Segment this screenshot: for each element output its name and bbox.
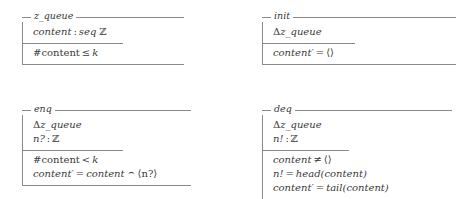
schema-header: init (262, 11, 456, 22)
decl-lhs: content (33, 26, 71, 37)
pred-rhs: head(content) (296, 168, 367, 179)
pred-lhs: #content (33, 47, 80, 58)
pred-lhs: content′ (273, 182, 314, 193)
schema-head-rule (76, 17, 184, 18)
declaration-part: Δz_queue n!:ℤ (263, 117, 452, 148)
predicate-line: content≠⟨⟩ (273, 153, 452, 167)
schema-box-enq: enq Δz_queue n?:ℤ #content<k content′=co… (22, 104, 191, 186)
schema-body: Δz_queue n?:ℤ #content<k content′=conten… (22, 115, 191, 185)
schema-name-enq: enq (31, 104, 55, 114)
predicate-part: content≠⟨⟩ n!=head(content) content′=tai… (263, 152, 452, 197)
decl-lhs: n? (33, 133, 45, 144)
schema-head-rule (55, 110, 191, 111)
predicate-part: content′=⟨⟩ (263, 45, 456, 62)
predicate-line: content′=⟨⟩ (273, 46, 456, 60)
schema-body: Δz_queue content′=⟨⟩ (262, 22, 456, 64)
pred-rhs: ⟨⟩ (326, 47, 334, 58)
predicate-part: #content<k content′=content⌢⟨n?⟩ (23, 152, 191, 183)
pred-lhs: content′ (273, 47, 314, 58)
schema-head-rule (293, 17, 456, 18)
declaration-part: Δz_queue (263, 24, 456, 41)
schema-divider (263, 43, 355, 44)
pred-lhs: content′ (33, 168, 74, 179)
decl-colon: : (283, 133, 290, 144)
schema-footer-rule (22, 64, 184, 65)
declaration-line: Δz_queue (33, 118, 191, 132)
predicate-line: n!=head(content) (273, 167, 452, 181)
schema-divider (263, 150, 349, 151)
pred-op: < (80, 154, 92, 165)
schema-head-rule (295, 110, 452, 111)
schema-body: Δz_queue n!:ℤ content≠⟨⟩ n!=head(content… (262, 115, 452, 199)
declaration-line: Δz_queue (273, 25, 456, 39)
decl-lhs: z_queue (40, 119, 81, 130)
schema-body: content:seq ℤ #content≤k (22, 22, 184, 64)
predicate-part: #content≤k (23, 45, 184, 62)
schema-box-deq: deq Δz_queue n!:ℤ content≠⟨⟩ n!=head(con… (262, 104, 452, 199)
schema-name-init: init (271, 11, 293, 21)
schema-box-z-queue: z_queue content:seq ℤ #content≤k (22, 11, 184, 65)
decl-type-prefix: seq (79, 26, 96, 37)
schema-head-stub (262, 17, 271, 18)
pred-rhs-a: content (86, 168, 124, 179)
declaration-part: Δz_queue n?:ℤ (23, 117, 191, 148)
schema-header: enq (22, 104, 191, 115)
pred-rhs: k (92, 154, 98, 165)
schema-head-stub (262, 110, 271, 111)
schema-header: deq (262, 104, 452, 115)
decl-type: ℤ (52, 133, 59, 144)
predicate-line: content′=tail(content) (273, 181, 452, 195)
declaration-line: content:seq ℤ (33, 25, 184, 39)
pred-op: = (74, 168, 86, 179)
schema-head-stub (22, 17, 31, 18)
pred-lhs: n! (273, 168, 283, 179)
decl-type: ℤ (99, 26, 106, 37)
schema-header: z_queue (22, 11, 184, 22)
pred-op: = (314, 182, 326, 193)
pred-lhs: content (273, 154, 311, 165)
schema-divider (23, 150, 123, 151)
declaration-part: content:seq ℤ (23, 24, 184, 41)
schema-head-stub (22, 110, 31, 111)
decl-lhs: n! (273, 133, 283, 144)
pred-rhs-b: ⟨n?⟩ (138, 168, 158, 179)
decl-lhs: z_queue (280, 26, 321, 37)
predicate-line: #content≤k (33, 46, 184, 60)
schema-box-init: init Δz_queue content′=⟨⟩ (262, 11, 456, 65)
predicate-line: content′=content⌢⟨n?⟩ (33, 167, 191, 181)
pred-op: = (283, 168, 295, 179)
pred-op: ≤ (80, 47, 92, 58)
decl-colon: : (71, 26, 78, 37)
pred-op: = (314, 47, 326, 58)
schema-name-deq: deq (271, 104, 295, 114)
declaration-line: Δz_queue (273, 118, 452, 132)
decl-type: ℤ (291, 133, 298, 144)
concat-operator: ⌢ (125, 166, 138, 177)
declaration-line: n?:ℤ (33, 132, 191, 146)
pred-rhs: k (92, 47, 98, 58)
schema-footer-rule (22, 185, 191, 186)
pred-rhs: ⟨⟩ (324, 154, 332, 165)
schema-divider (23, 43, 123, 44)
pred-lhs: #content (33, 154, 80, 165)
declaration-line: n!:ℤ (273, 132, 452, 146)
schema-footer-rule (262, 64, 456, 65)
schema-name-z-queue: z_queue (31, 11, 76, 21)
pred-rhs: tail(content) (326, 182, 389, 193)
decl-lhs: z_queue (280, 119, 321, 130)
predicate-line: #content<k (33, 153, 191, 167)
pred-op: ≠ (311, 154, 323, 165)
